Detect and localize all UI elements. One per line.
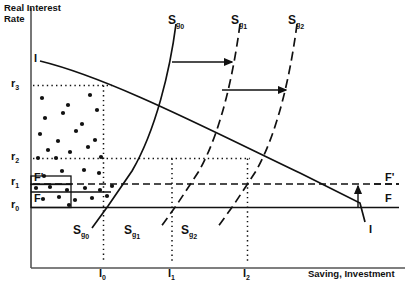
curve-label-sg0-top: Sg0 [168,14,184,31]
chart-svg [0,0,411,290]
f-prime-label-right: F' [385,172,394,184]
x-tick-I1: I1 [168,268,175,282]
curve-label-sg1-top: Sg1 [231,14,247,31]
x-tick-I0: I0 [99,268,106,282]
y-tick-r0: r0 [11,199,19,213]
sg0-curve [92,24,176,228]
curve-label-investment-bottom: I [369,224,372,236]
f-label-left: F [34,193,41,205]
y-axis-title-line1: Real Interest [4,3,61,13]
f-label-right: F [385,193,392,205]
curve-label-sg2-bottom: Sg2 [181,224,197,241]
curve-label-sg1-bottom: Sg1 [124,224,140,241]
x-axis-title: Saving, Investment [308,269,395,279]
y-tick-r1: r1 [11,176,19,190]
y-tick-r2: r2 [11,151,19,165]
stippled-region [34,93,114,207]
y-axis-title-line2: Rate [4,14,25,24]
chart-canvas: Real Interest Rate Saving, Investment r3… [0,0,411,290]
sg2-curve [217,24,297,228]
y-tick-r3: r3 [11,78,19,92]
curve-label-sg0-bottom: Sg0 [73,224,89,241]
curve-label-sg2-top: Sg2 [288,14,304,31]
curve-label-investment-top: I [34,53,37,65]
f-prime-label-left: F' [34,172,43,184]
x-tick-I2: I2 [243,268,250,282]
